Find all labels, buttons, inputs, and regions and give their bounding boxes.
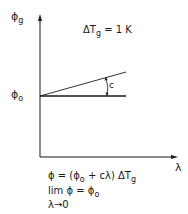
x-axis-arrow-icon <box>171 155 178 159</box>
condition-subscript: g <box>96 29 101 38</box>
eq1-main: ϕ = (ϕ <box>48 170 80 181</box>
eq1-sub2: g <box>131 175 136 184</box>
y-axis-arrow-icon <box>38 14 42 21</box>
condition-prefix: ΔT <box>83 24 96 35</box>
eq2-sub: o <box>94 190 99 199</box>
eq1-mid: + cλ) ΔT <box>85 170 131 181</box>
eq1-sub1: o <box>80 175 85 184</box>
condition-label: ΔTg = 1 K <box>83 25 132 35</box>
condition-suffix: = 1 K <box>101 24 132 35</box>
origin-subscript: o <box>18 94 23 103</box>
equation-line-1: ϕ = (ϕo + cλ) ΔTg <box>48 171 136 181</box>
equation-line-3: λ→0 <box>48 200 69 210</box>
y-axis-subscript: g <box>18 16 23 25</box>
slope-label: c <box>109 81 114 90</box>
y-axis-label: ϕg <box>11 11 23 22</box>
origin-label: ϕo <box>11 89 23 100</box>
x-axis-label: λ <box>175 162 182 173</box>
eq2-main: lim ϕ = ϕ <box>48 185 94 196</box>
equation-line-2: lim ϕ = ϕo <box>48 186 99 196</box>
